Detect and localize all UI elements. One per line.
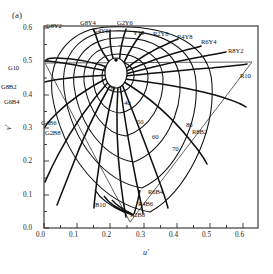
hue-label-g2b8: G2B8 — [45, 129, 60, 136]
y-tick-6: 0.6 — [23, 24, 32, 32]
hue-label-g8b2: G8B2 — [1, 83, 16, 90]
hue-loci — [45, 29, 247, 217]
hue-label-b10: B10 — [95, 201, 106, 208]
hue-label-r8b2: R8B2 — [192, 128, 207, 135]
chroma-label-60: 60 — [152, 133, 159, 140]
chroma-label-30: 30 — [109, 84, 116, 91]
chroma-label-50: 50 — [137, 118, 144, 125]
hue-label-r6b4: R6B4 — [148, 188, 163, 195]
x-tick-3: 0.3 — [136, 231, 145, 239]
hue-label-g2y6: G2Y6 — [117, 19, 133, 26]
y-tick-3: 0.3 — [23, 124, 32, 132]
y-axis-title: v' — [4, 125, 13, 130]
x-tick-1: 0.1 — [69, 231, 78, 239]
hue-label-g10: G10 — [8, 64, 19, 71]
hue-label-r2b8: R2B8 — [130, 211, 145, 218]
hue-label-r4y8: R4Y8 — [177, 33, 192, 40]
hue-label-g8y2: G8Y2 — [46, 22, 62, 29]
x-axis-ticks — [44, 223, 243, 228]
y-tick-4: 0.4 — [23, 91, 32, 99]
hue-label-g6b4: G6B4 — [4, 98, 19, 105]
hue-label-r6y4: R6Y4 — [201, 38, 216, 45]
chroma-label-80: 80 — [186, 121, 193, 128]
x-tick-5: 0.5 — [202, 231, 211, 239]
y-tick-2: 0.2 — [23, 157, 32, 165]
x-axis-title: u' — [143, 248, 149, 257]
chroma-contours — [52, 27, 213, 212]
hue-label-g4b6: G4B6 — [41, 119, 56, 126]
x-tick-4: 0.4 — [169, 231, 178, 239]
chroma-label-40: 40 — [124, 99, 131, 106]
x-tick-6: 0.6 — [235, 231, 244, 239]
hue-label-g4y6: G4Y6 — [93, 27, 109, 34]
hue-label-r8y2: R8Y2 — [228, 47, 243, 54]
plot-frame — [44, 26, 258, 228]
y-tick-0: 0.0 — [23, 224, 32, 232]
chroma-label-70: 70 — [172, 145, 179, 152]
hue-label-g8y4: G8Y4 — [80, 19, 96, 26]
y-tick-5: 0.5 — [23, 57, 32, 65]
hue-label-y10: Y10 — [133, 29, 144, 36]
hue-label-r2y8: R2Y8 — [153, 30, 168, 37]
figure-root: (a) — [0, 0, 273, 274]
x-tick-0: 0.0 — [36, 231, 45, 239]
hue-label-r4b6: R4B6 — [138, 200, 153, 207]
y-tick-1: 0.1 — [23, 191, 32, 199]
hue-label-r10: R10 — [240, 72, 251, 79]
x-tick-2: 0.2 — [102, 231, 111, 239]
